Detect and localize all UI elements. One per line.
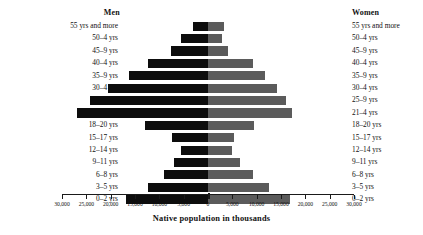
- age-group-label-left: 9–11 yrs: [0, 156, 118, 168]
- bar-women: [208, 146, 232, 155]
- age-group-label-left: 15–17 yrs: [0, 132, 118, 144]
- pyramid-row: 50–4 yrs50–4 yrs: [0, 32, 423, 44]
- bar-men: [181, 34, 208, 43]
- axis-tick-label: 25,000: [322, 200, 337, 208]
- age-group-label-right: 40–4 yrs: [352, 57, 423, 69]
- age-group-label-right: 9–11 yrs: [352, 156, 423, 168]
- age-group-label-right: 45–9 yrs: [352, 45, 423, 57]
- axis-tick: [159, 195, 160, 199]
- population-pyramid-chart: Men Women 55 yrs and more55 yrs and more…: [0, 0, 423, 235]
- axis-tick: [305, 195, 306, 199]
- men-legend-label: Men: [0, 8, 120, 17]
- axis-tick-label: 15,000: [273, 200, 288, 208]
- axis-tick-label: 5,000: [226, 200, 239, 208]
- axis-tick-label: 25,000: [79, 200, 94, 208]
- pyramid-row: 55 yrs and more55 yrs and more: [0, 20, 423, 32]
- axis-tick: [232, 195, 233, 199]
- bar-women: [208, 121, 254, 130]
- bar-men: [108, 84, 208, 93]
- bar-men: [172, 133, 208, 142]
- pyramid-row: 9–11 yrs9–11 yrs: [0, 156, 423, 168]
- age-group-label-left: 35–9 yrs: [0, 70, 118, 82]
- axis-tick-label: 30,000: [346, 200, 361, 208]
- age-group-label-left: 6–8 yrs: [0, 169, 118, 181]
- bar-women: [208, 59, 253, 68]
- pyramid-row: 21–4 yrs21–4 yrs: [0, 107, 423, 119]
- pyramid-row: 35–9 yrs35–9 yrs: [0, 70, 423, 82]
- age-group-label-right: 30–4 yrs: [352, 82, 423, 94]
- bar-men: [164, 170, 208, 179]
- axis-tick: [354, 195, 355, 199]
- bar-women: [208, 183, 269, 192]
- bar-women: [208, 84, 277, 93]
- axis-tick-label: 20,000: [103, 200, 118, 208]
- age-group-label-left: 55 yrs and more: [0, 20, 118, 32]
- age-group-label-right: 18–20 yrs: [352, 119, 423, 131]
- bar-men: [181, 146, 208, 155]
- bar-women: [208, 170, 253, 179]
- age-group-label-right: 50–4 yrs: [352, 32, 423, 44]
- pyramid-row: 12–14 yrs12–14 yrs: [0, 144, 423, 156]
- bar-men: [90, 96, 208, 105]
- axis-tick-label: 20,000: [298, 200, 313, 208]
- axis-tick: [208, 193, 210, 199]
- pyramid-row: 40–4 yrs40–4 yrs: [0, 57, 423, 69]
- bar-men: [145, 121, 208, 130]
- women-legend-label: Women: [352, 8, 423, 17]
- pyramid-row: 18–20 yrs18–20 yrs: [0, 119, 423, 131]
- age-group-label-right: 35–9 yrs: [352, 70, 423, 82]
- pyramid-rows: 55 yrs and more55 yrs and more50–4 yrs50…: [0, 20, 423, 206]
- bar-men: [193, 22, 208, 31]
- axis-tick-label: 5,000: [177, 200, 190, 208]
- bar-women: [208, 158, 240, 167]
- axis-tick-label: 30,000: [54, 200, 69, 208]
- bar-women: [208, 108, 292, 117]
- bar-men: [148, 59, 208, 68]
- axis-tick: [111, 195, 112, 199]
- pyramid-row: 45–9 yrs45–9 yrs: [0, 45, 423, 57]
- bar-women: [208, 34, 222, 43]
- bar-women: [208, 71, 265, 80]
- axis-tick: [135, 195, 136, 199]
- pyramid-row: 25–9 yrs25–9 yrs: [0, 94, 423, 106]
- age-group-label-right: 6–8 yrs: [352, 169, 423, 181]
- age-group-label-left: 18–20 yrs: [0, 119, 118, 131]
- age-group-label-right: 12–14 yrs: [352, 144, 423, 156]
- age-group-label-right: 55 yrs and more: [352, 20, 423, 32]
- axis-tick-label: 10,000: [152, 200, 167, 208]
- bar-women: [208, 22, 224, 31]
- pyramid-row: 30–4 yrs30–4 yrs: [0, 82, 423, 94]
- age-group-label-left: 12–14 yrs: [0, 144, 118, 156]
- age-group-label-right: 25–9 yrs: [352, 94, 423, 106]
- axis-tick: [184, 195, 185, 199]
- axis-tick: [257, 195, 258, 199]
- age-group-label-left: 50–4 yrs: [0, 32, 118, 44]
- age-group-label-left: 40–4 yrs: [0, 57, 118, 69]
- age-group-label-right: 15–17 yrs: [352, 132, 423, 144]
- bar-men: [174, 158, 208, 167]
- age-group-label-left: 3–5 yrs: [0, 181, 118, 193]
- pyramid-row: 3–5 yrs3–5 yrs: [0, 181, 423, 193]
- x-axis: 30,00025,00020,00015,00010,0005,00005,00…: [0, 194, 423, 214]
- axis-tick: [86, 195, 87, 199]
- axis-tick-label: 0: [207, 200, 210, 208]
- chart-header: Men Women: [0, 8, 423, 20]
- axis-tick: [281, 195, 282, 199]
- axis-tick: [330, 195, 331, 199]
- bar-men: [77, 108, 208, 117]
- axis-tick-label: 15,000: [127, 200, 142, 208]
- age-group-label-left: 45–9 yrs: [0, 45, 118, 57]
- age-group-label-right: 21–4 yrs: [352, 107, 423, 119]
- pyramid-row: 15–17 yrs15–17 yrs: [0, 132, 423, 144]
- pyramid-row: 6–8 yrs6–8 yrs: [0, 169, 423, 181]
- bar-men: [148, 183, 208, 192]
- age-group-label-left: 30–4 yrs: [0, 82, 118, 94]
- axis-tick-label: 10,000: [249, 200, 264, 208]
- bar-men: [171, 46, 208, 55]
- bar-women: [208, 46, 228, 55]
- age-group-label-right: 3–5 yrs: [352, 181, 423, 193]
- bar-women: [208, 133, 234, 142]
- bar-women: [208, 96, 286, 105]
- axis-tick: [62, 195, 63, 199]
- axis-title: Native population in thousands: [0, 214, 423, 223]
